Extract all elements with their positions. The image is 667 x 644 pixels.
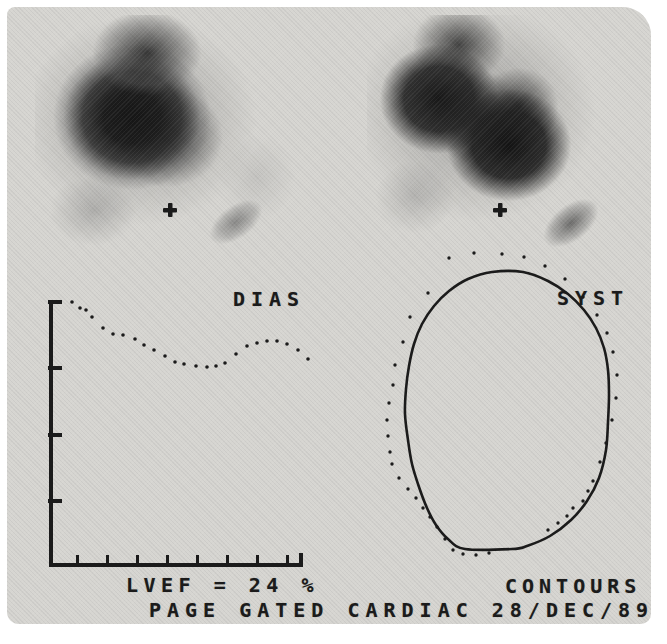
systole-contour-outline xyxy=(405,271,609,550)
contours-label: CONTOURS xyxy=(505,576,641,596)
systole-label: SYST xyxy=(557,288,629,308)
volume-curve-axes xyxy=(48,300,303,567)
gated-cardiac-page: DIAS SYST LVEF = 24 % CONTOURS PAGE GATE… xyxy=(0,0,667,644)
lvef-value: LVEF = 24 % xyxy=(126,575,319,595)
overlay-graphics xyxy=(0,0,667,644)
center-plus-markers xyxy=(163,203,507,217)
diastole-label: DIAS xyxy=(233,289,305,309)
page-title-footer: PAGE GATED CARDIAC 28/DEC/89 xyxy=(149,600,654,620)
